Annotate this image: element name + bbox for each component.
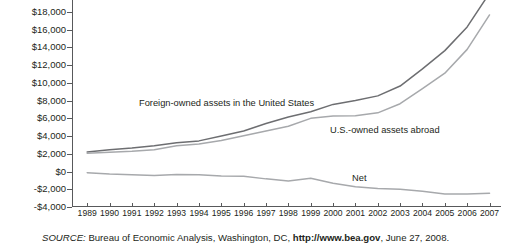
y-tick-label: $12,000	[0, 60, 66, 70]
series-label-us-owned-assets: U.S.-owned assets abroad	[330, 125, 440, 135]
y-tick-label: $2,000	[0, 149, 66, 159]
y-tick-label: $4,000	[0, 131, 66, 141]
plot-area-wrapper: $20,000$18,000$16,000$14,000$12,000$10,0…	[0, 0, 513, 224]
y-tick	[67, 207, 72, 208]
y-tick-label: -$4,000	[0, 202, 66, 212]
y-tick-label: $8,000	[0, 96, 66, 106]
y-tick-label: -$2,000	[0, 184, 66, 194]
series-label-foreign-owned-assets: Foreign-owned assets in the United State…	[139, 98, 314, 108]
source-keyword: SOURCE:	[42, 232, 86, 243]
y-tick-label: $18,000	[0, 7, 66, 17]
source-date: , June 27, 2008.	[380, 232, 449, 243]
series-line	[87, 173, 489, 194]
x-tick-label: 2007	[475, 209, 505, 218]
series-label-net: Net	[352, 173, 366, 183]
y-tick-label: $16,000	[0, 25, 66, 35]
y-tick-label: $6,000	[0, 113, 66, 123]
y-tick-label: $14,000	[0, 42, 66, 52]
source-body: Bureau of Economic Analysis, Washington,…	[86, 232, 293, 243]
source-url[interactable]: http://www.bea.gov	[293, 232, 381, 243]
y-tick-label: $10,000	[0, 78, 66, 88]
investment-position-chart-figure: $20,000$18,000$16,000$14,000$12,000$10,0…	[0, 0, 513, 250]
y-tick-label: $0	[0, 167, 66, 177]
source-note: SOURCE: Bureau of Economic Analysis, Was…	[42, 232, 449, 244]
